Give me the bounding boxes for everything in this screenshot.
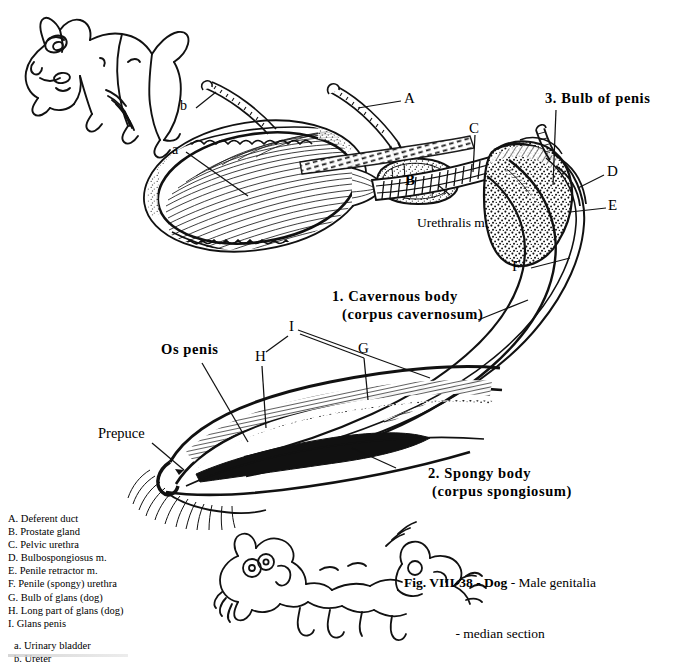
label-cavernous-body-line1: 1. Cavernous body bbox=[332, 288, 458, 305]
label-E: E bbox=[608, 197, 617, 215]
label-bulb-of-penis: 3. Bulb of penis bbox=[545, 90, 651, 107]
label-I: I bbox=[289, 318, 294, 336]
label-F: F bbox=[512, 258, 520, 276]
label-B: B bbox=[405, 172, 415, 190]
label-cavernous-body-line2: (corpus cavernosum) bbox=[342, 306, 483, 323]
label-a: a bbox=[172, 142, 178, 159]
label-b: b bbox=[180, 98, 187, 115]
page-footer-rule bbox=[8, 654, 128, 657]
legend-item-D: D. Bulbospongiosus m. bbox=[8, 551, 123, 564]
cartoon-dog-standing-illustration bbox=[26, 18, 189, 158]
legend-spacer bbox=[8, 630, 123, 639]
legend-item-E: E. Penile retractor m. bbox=[8, 564, 123, 577]
label-A: A bbox=[404, 90, 415, 108]
label-spongy-body-line1: 2. Spongy body bbox=[428, 465, 531, 482]
label-G: G bbox=[358, 340, 369, 358]
legend-item-A: A. Deferent duct bbox=[8, 512, 123, 525]
legend-item-F: F. Penile (spongy) urethra bbox=[8, 577, 123, 590]
legend-item-a: a. Urinary bladder bbox=[8, 639, 123, 652]
legend-item-I: I. Glans penis bbox=[8, 617, 123, 630]
legend-item-G: G. Bulb of glans (dog) bbox=[8, 591, 123, 604]
label-prepuce: Prepuce bbox=[98, 425, 145, 442]
label-C: C bbox=[469, 120, 479, 138]
label-H: H bbox=[255, 348, 266, 366]
label-spongy-body-line2: (corpus spongiosum) bbox=[432, 483, 572, 500]
legend-item-H: H. Long part of glans (dog) bbox=[8, 604, 123, 617]
figure-caption-bold: Fig. VIII-38 - Dog bbox=[404, 575, 507, 590]
legend-list: A. Deferent duct B. Prostate gland C. Pe… bbox=[8, 512, 123, 665]
glans-penis bbox=[128, 367, 502, 530]
figure-caption: Fig. VIII-38 - Dog - Male genitalia - me… bbox=[404, 540, 596, 659]
label-urethralis-m: Urethralis m. bbox=[417, 215, 488, 231]
figure-caption-line2: - median section bbox=[404, 625, 596, 642]
legend-item-C: C. Pelvic urethra bbox=[8, 538, 123, 551]
label-os-penis: Os penis bbox=[161, 341, 219, 358]
legend-item-B: B. Prostate gland bbox=[8, 525, 123, 538]
label-D: D bbox=[607, 163, 618, 181]
figure-caption-rest: - Male genitalia bbox=[507, 575, 596, 590]
